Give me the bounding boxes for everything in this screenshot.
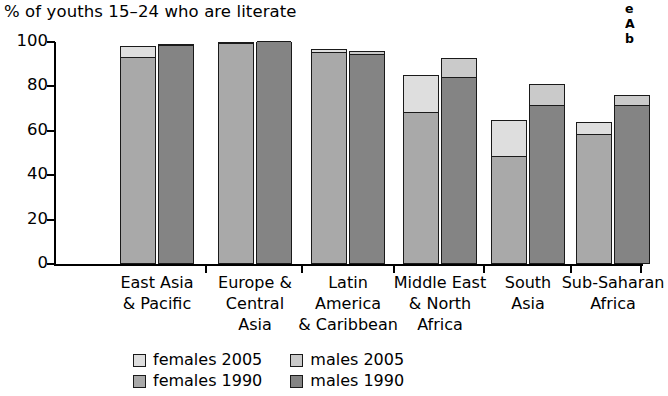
bar-females-2 xyxy=(218,42,254,264)
bar-segment-males-1990 xyxy=(159,45,193,263)
legend-swatch-icon xyxy=(133,354,146,367)
legend-label: females 1990 xyxy=(153,372,262,390)
y-axis-tick xyxy=(47,263,55,265)
y-axis-tick-label: 40 xyxy=(27,166,48,182)
y-axis-tick xyxy=(47,130,55,132)
bar-males-3 xyxy=(349,51,385,264)
bar-females-4 xyxy=(403,75,439,264)
y-axis-tick-label: 60 xyxy=(27,122,48,138)
bar-females-3 xyxy=(311,49,347,264)
legend-swatch-icon xyxy=(290,354,303,367)
y-axis-tick-label: 0 xyxy=(38,255,49,271)
y-axis-tick xyxy=(47,219,55,221)
x-axis-label-line: Sub-Saharan xyxy=(543,272,668,293)
x-axis-label-6: Sub-SaharanAfrica xyxy=(543,272,668,314)
x-axis-label-line: Africa xyxy=(370,314,510,335)
legend-item-females-2005[interactable]: females 2005 xyxy=(133,351,262,369)
bar-females-1 xyxy=(120,46,156,264)
y-axis-tick-label: 20 xyxy=(27,211,48,227)
bar-segment-males-1990 xyxy=(615,105,649,263)
legend-label: males 2005 xyxy=(310,351,404,369)
legend-item-males-1990[interactable]: males 1990 xyxy=(290,372,404,390)
bar-males-5 xyxy=(529,84,565,264)
legend-label: males 1990 xyxy=(310,372,404,390)
bar-females-6 xyxy=(576,122,612,264)
bar-males-1 xyxy=(158,44,194,264)
legend-item-males-2005[interactable]: males 2005 xyxy=(290,351,404,369)
legend-swatch-icon xyxy=(133,375,146,388)
x-axis-label-line: Africa xyxy=(543,293,668,314)
legend-item-females-1990[interactable]: females 1990 xyxy=(133,372,262,390)
legend-label: females 2005 xyxy=(153,351,262,369)
bar-males-6 xyxy=(614,95,650,264)
y-axis-tick-label: 80 xyxy=(27,77,48,93)
legend-swatch-icon xyxy=(290,375,303,388)
y-axis-tick xyxy=(47,41,55,43)
bar-segment-females-1990 xyxy=(492,156,526,263)
bar-segment-males-1990 xyxy=(442,77,476,263)
bar-males-4 xyxy=(441,58,477,264)
y-axis-line xyxy=(54,42,56,266)
y-axis-tick xyxy=(47,174,55,176)
bar-segment-females-1990 xyxy=(312,52,346,263)
bar-males-2 xyxy=(256,42,292,264)
bar-segment-females-1990 xyxy=(121,57,155,263)
y-axis-tick-label: 100 xyxy=(17,33,49,49)
chart-legend: females 2005males 2005females 1990males … xyxy=(133,351,404,390)
bar-segment-females-1990 xyxy=(577,134,611,263)
bar-segment-males-1990 xyxy=(530,105,564,263)
bar-segment-males-1990 xyxy=(350,54,384,263)
bar-segment-males-1990 xyxy=(257,41,291,263)
bar-segment-females-1990 xyxy=(219,43,253,263)
bar-females-5 xyxy=(491,120,527,264)
y-axis-tick xyxy=(47,85,55,87)
bar-segment-females-1990 xyxy=(404,112,438,263)
x-axis-line xyxy=(54,264,643,266)
